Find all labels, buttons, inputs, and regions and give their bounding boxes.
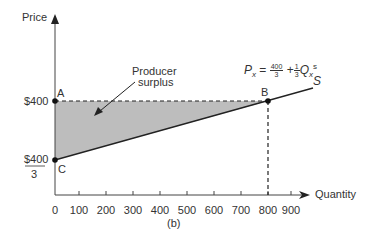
x-tick-label: 300 [124,205,142,216]
x-tick-label: 100 [70,205,88,216]
point-b-label: B [261,87,268,98]
chart-canvas [0,0,368,236]
eq-q-sub: x [309,70,313,79]
x-tick-label: 700 [232,205,250,216]
x-tick-label: 500 [178,205,196,216]
supply-equation: Px = 4003 +13Qxs [244,62,317,79]
x-tick-label: 400 [151,205,169,216]
eq-plus: + [283,63,293,77]
eq-q-sup: s [313,62,317,71]
y-axis-arrow-icon [51,14,59,24]
eq-equals: = [256,63,270,77]
y-axis-label: Price [22,12,47,23]
y-tick-400-3-denominator: 3 [31,169,37,180]
point-b-marker [265,98,271,104]
point-c-label: C [58,164,66,175]
x-tick-label: 600 [205,205,223,216]
x-tick-label: 200 [97,205,115,216]
x-ticks [79,191,291,195]
eq-p: P [244,63,252,77]
eq-frac-400-3: 4003 [270,63,284,78]
x-tick-label: 800 [259,205,277,216]
point-a-marker [52,98,58,104]
eq-q: Q [300,63,309,77]
chart-caption: (b) [167,218,180,229]
x-tick-label: 900 [282,205,300,216]
point-a-label: A [57,88,64,99]
point-c-marker [52,157,58,163]
y-tick-400-3-numerator: $400 [24,154,48,165]
x-axis-label: Quantity [315,189,356,200]
x-tick-label: 0 [52,205,58,216]
y-tick-400: $400 [24,96,48,107]
surplus-label-line2: surplus [138,77,173,88]
